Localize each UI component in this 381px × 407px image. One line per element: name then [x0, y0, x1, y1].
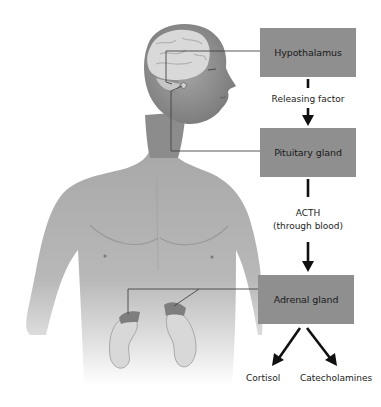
catecholamines-label: Catecholamines: [300, 372, 378, 384]
adrenal-box: Adrenal gland: [258, 275, 354, 324]
torso: [26, 150, 262, 385]
through-blood-label: (through blood): [262, 220, 354, 232]
arrow-head-2: [302, 261, 314, 272]
releasing-factor-label: Releasing factor: [262, 93, 354, 105]
pituitary-label: Pituitary gland: [274, 147, 342, 158]
pituitary-box: Pituitary gland: [260, 128, 356, 177]
hypothalamus-label: Hypothalamus: [274, 47, 342, 58]
hypothalamus-box: Hypothalamus: [260, 28, 356, 77]
cortisol-label: Cortisol: [246, 372, 292, 384]
head: [144, 24, 236, 124]
adrenal-label: Adrenal gland: [274, 294, 339, 305]
arrow-head-1: [302, 115, 314, 126]
hpa-axis-diagram: Hypothalamus Releasing factor Pituitary …: [0, 0, 381, 407]
arrow-shaft-cortisol: [279, 328, 300, 358]
arrow-shaft-catecholamines: [307, 328, 330, 358]
acth-label: ACTH: [262, 207, 354, 219]
